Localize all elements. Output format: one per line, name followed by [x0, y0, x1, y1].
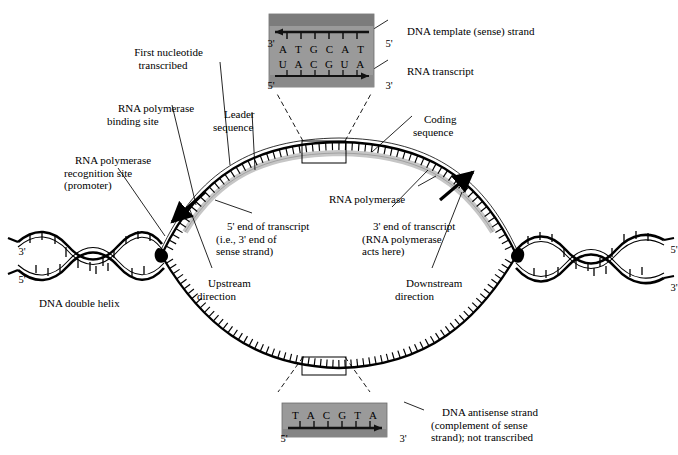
inset-top-dna-base-1: T [295, 43, 302, 55]
inset-top-dna-base-3: C [326, 43, 333, 55]
helix-right-five-prime-label: 5' [660, 232, 678, 269]
label-dna-template-sense-strand: DNA template (sense) strand [396, 13, 586, 50]
label-upstream-direction: Upstream direction [197, 265, 287, 315]
label-dna-antisense-strand: DNA antisense strand (complement of sens… [431, 394, 611, 455]
inset-top-rna-base-3: G [325, 58, 333, 70]
inset-top-rna-base-row: UACGUA [269, 57, 374, 71]
inset-top-rna-base-4: U [341, 58, 349, 70]
label-downstream-direction: Downstream direction [395, 265, 495, 315]
inset-bottom-left-five-prime: 5' [270, 421, 288, 455]
inset-top-dna-base-5: T [357, 43, 364, 55]
inset-top-dna-base-0: A [279, 43, 287, 55]
inset-top-dna-base-2: G [310, 43, 318, 55]
label-rna-polymerase-recognition-site: RNA polymerase recognition site (promote… [64, 142, 184, 204]
inset-bottom-base-3: G [338, 409, 346, 421]
label-coding-sequence: Coding sequence [413, 101, 503, 151]
label-leader-sequence: Leader sequence [213, 96, 291, 146]
label-rna-polymerase-binding-site: RNA polymerase binding site [107, 90, 227, 140]
inset-top-left-five-prime: 5' [257, 68, 275, 105]
transcription-diagram: First nucleotide transcribed RNA polymer… [0, 0, 678, 455]
label-rna-transcript: RNA transcript [396, 53, 556, 90]
inset-top-right-three-prime: 3' [375, 68, 393, 105]
inset-top-rna-base-2: C [310, 58, 317, 70]
inset-bottom-base-row: TACGTA [282, 408, 387, 422]
inset-top-dna-base-4: A [341, 43, 349, 55]
inset-bottom-base-2: C [323, 409, 330, 421]
inset-top-dna-base-row: ATGCAT [269, 42, 374, 56]
label-dna-double-helix: DNA double helix [28, 285, 158, 322]
label-three-prime-end-of-transcript: 3' end of transcript (RNA polymerase act… [362, 208, 502, 270]
dna-double-helix-right [516, 231, 674, 283]
inset-bottom-base-0: T [292, 409, 299, 421]
inset-top-rna-base-5: A [356, 58, 364, 70]
inset-top-rna-base-0: U [279, 58, 287, 70]
helix-left-five-prime-label: 5' [8, 262, 26, 299]
inset-bottom-right-three-prime: 3' [389, 421, 407, 455]
inset-bottom-base-1: A [307, 409, 315, 421]
label-five-prime-end-of-transcript: 5' end of transcript (i.e., 3' end of se… [216, 208, 346, 270]
inset-top-rna-base-1: A [294, 58, 302, 70]
helix-right-three-prime-label: 3' [660, 270, 678, 307]
inset-bottom-base-4: T [354, 409, 361, 421]
inset-top-right-five-prime: 5' [375, 26, 393, 63]
dna-double-helix-left [8, 231, 164, 280]
label-first-nucleotide-transcribed: First nucleotide transcribed [103, 34, 223, 84]
inset-bottom-base-5: A [369, 409, 377, 421]
